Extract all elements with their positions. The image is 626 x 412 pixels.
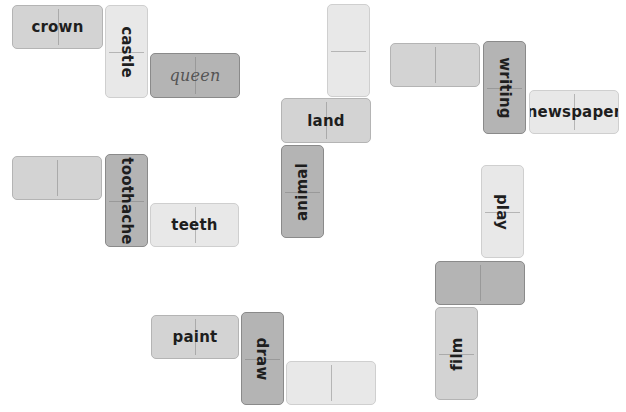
domino-toothache[interactable]: toothache [105, 154, 148, 247]
domino-word: writing [496, 57, 514, 119]
domino-word: paint [173, 328, 218, 346]
domino-word: castle [118, 26, 136, 78]
domino-queen[interactable]: queen [150, 53, 240, 98]
domino-word: crown [31, 18, 83, 36]
domino-crown[interactable]: crown [12, 5, 103, 49]
domino-teeth[interactable]: teeth [150, 203, 239, 247]
domino-film[interactable]: film [435, 307, 478, 400]
domino-blank[interactable] [12, 156, 102, 200]
domino-newspaper[interactable]: newspaper [529, 90, 619, 134]
domino-word: teeth [171, 216, 217, 234]
domino-blank[interactable] [435, 261, 525, 305]
domino-blank[interactable] [390, 43, 480, 87]
domino-blank[interactable] [286, 361, 376, 405]
domino-animal[interactable]: animal [281, 145, 324, 238]
domino-word: play [494, 193, 512, 229]
domino-play[interactable]: play [481, 165, 524, 258]
domino-land[interactable]: land [281, 98, 371, 143]
domino-word: toothache [118, 157, 136, 244]
domino-word: animal [294, 162, 312, 220]
domino-word: queen [170, 66, 221, 85]
domino-blank[interactable] [327, 4, 370, 97]
domino-word: film [448, 337, 466, 370]
domino-word: newspaper [529, 103, 619, 121]
domino-word: land [307, 112, 344, 130]
domino-writing[interactable]: writing [483, 41, 526, 134]
domino-castle[interactable]: castle [105, 5, 148, 98]
domino-draw[interactable]: draw [241, 312, 284, 405]
domino-word: draw [254, 337, 272, 380]
domino-paint[interactable]: paint [151, 315, 239, 359]
